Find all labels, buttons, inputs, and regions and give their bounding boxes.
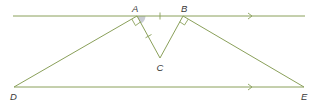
label-d: D <box>10 91 17 102</box>
label-e: E <box>301 91 308 102</box>
shaded-angle-a <box>137 16 146 24</box>
label-c: C <box>157 62 164 73</box>
segment-cb <box>160 16 183 58</box>
label-b: B <box>181 3 188 14</box>
segment-be <box>183 16 304 87</box>
label-a: A <box>131 3 138 14</box>
segment-da <box>14 16 137 87</box>
geometry-diagram: A B C D E <box>0 0 317 105</box>
